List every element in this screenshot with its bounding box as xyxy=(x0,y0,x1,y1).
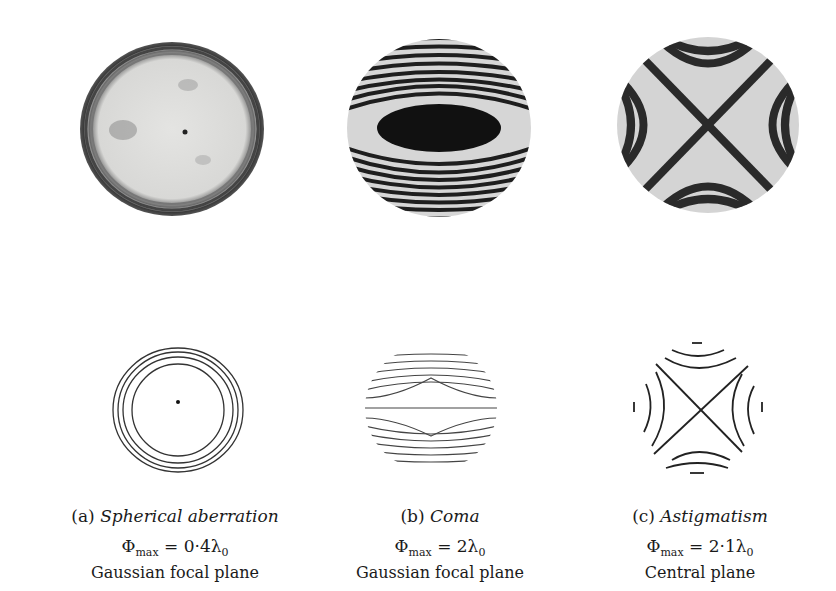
plane-label: Gaussian focal plane xyxy=(45,564,305,582)
panel-name: Spherical aberration xyxy=(100,506,279,526)
plane-label: Central plane xyxy=(585,564,815,582)
interferogram-spherical-photo xyxy=(78,40,266,218)
phi-sub: max xyxy=(135,546,158,559)
panel-name: Coma xyxy=(430,506,480,526)
phi-symbol: Φ xyxy=(646,536,660,556)
phi-symbol: Φ xyxy=(395,536,409,556)
lambda-sub: 0 xyxy=(222,546,229,559)
caption-c-title: (c) Astigmatism xyxy=(585,505,815,527)
phi-symbol: Φ xyxy=(121,536,135,556)
caption-a-title: (a) Spherical aberration xyxy=(45,505,305,527)
panel-label: (a) xyxy=(71,506,94,526)
phi-value: = 0·4λ xyxy=(159,536,222,556)
phi-value: = 2·1λ xyxy=(684,536,747,556)
concentric-rings-drawing xyxy=(108,344,248,476)
phi-max-equation: Φmax = 2·1λ0 xyxy=(585,535,815,564)
panel-name: Astigmatism xyxy=(660,506,768,526)
lambda-sub: 0 xyxy=(747,546,754,559)
caption-c: (c) Astigmatism Φmax = 2·1λ0 Central pla… xyxy=(585,505,815,582)
phi-sub: max xyxy=(409,546,432,559)
caption-b: (b) Coma Φmax = 2λ0 Gaussian focal plane xyxy=(315,505,565,582)
interferogram-astigmatism-photo xyxy=(616,36,800,214)
caption-b-title: (b) Coma xyxy=(315,505,565,527)
phi-value: = 2λ xyxy=(432,536,479,556)
coma-fringes-drawing xyxy=(364,344,498,472)
interferogram-coma-photo xyxy=(346,38,532,218)
lambda-sub: 0 xyxy=(478,546,485,559)
panel-label: (b) xyxy=(400,506,424,526)
panel-label: (c) xyxy=(632,506,655,526)
phi-max-equation: Φmax = 2λ0 xyxy=(315,535,565,564)
hyperbolic-fringes-drawing xyxy=(630,340,766,476)
plane-label: Gaussian focal plane xyxy=(315,564,565,582)
phi-max-equation: Φmax = 0·4λ0 xyxy=(45,535,305,564)
caption-a: (a) Spherical aberration Φmax = 0·4λ0 Ga… xyxy=(45,505,305,582)
phi-sub: max xyxy=(660,546,683,559)
